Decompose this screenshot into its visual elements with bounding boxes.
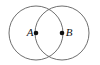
center-point-a-dot [34,31,39,36]
diagram-canvas: A B [0,0,100,65]
center-point-b-label: B [66,26,73,38]
center-point-a-label: A [26,26,34,38]
center-point-b-dot [60,31,65,36]
two-circle-venn-diagram: A B [0,0,100,65]
